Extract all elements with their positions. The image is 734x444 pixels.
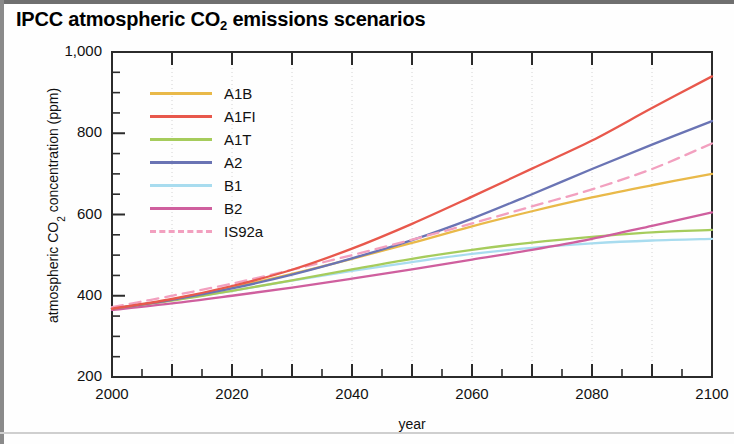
- y-axis-tick-label: 1,000: [42, 42, 102, 59]
- x-axis-tick-label: 2040: [312, 385, 392, 402]
- legend-item-a1b[interactable]: A1B: [150, 82, 263, 105]
- legend-label: IS92a: [224, 223, 263, 240]
- legend-label: B2: [224, 200, 242, 217]
- legend-label: A1FI: [224, 108, 256, 125]
- series-line-b1: [112, 239, 712, 309]
- figure-panel: IPCC atmospheric CO2 emissions scenarios…: [0, 0, 734, 444]
- plot-area: [0, 0, 734, 444]
- y-axis-tick-label: 600: [42, 205, 102, 222]
- legend-swatch-b2: [150, 207, 212, 210]
- legend-item-is92a[interactable]: IS92a: [150, 220, 263, 243]
- legend-item-a1fi[interactable]: A1FI: [150, 105, 263, 128]
- y-axis-tick-label: 400: [42, 286, 102, 303]
- legend-swatch-a1fi: [150, 115, 212, 118]
- plot-svg: [0, 0, 734, 444]
- legend-item-b1[interactable]: B1: [150, 174, 263, 197]
- legend-swatch-a2: [150, 161, 212, 164]
- legend-item-b2[interactable]: B2: [150, 197, 263, 220]
- legend-swatch-b1: [150, 184, 212, 187]
- legend-label: A1B: [224, 85, 252, 102]
- legend-swatch-a1t: [150, 138, 212, 141]
- x-axis-tick-label: 2060: [432, 385, 512, 402]
- legend-item-a2[interactable]: A2: [150, 151, 263, 174]
- x-axis-tick-label: 2020: [192, 385, 272, 402]
- legend-label: A2: [224, 154, 242, 171]
- y-axis-tick-label: 800: [42, 123, 102, 140]
- legend-swatch-is92a: [150, 230, 212, 233]
- legend-item-a1t[interactable]: A1T: [150, 128, 263, 151]
- legend: A1BA1FIA1TA2B1B2IS92a: [150, 82, 263, 243]
- legend-label: A1T: [224, 131, 252, 148]
- x-axis-tick-label: 2080: [552, 385, 632, 402]
- legend-label: B1: [224, 177, 242, 194]
- x-axis-tick-label: 2000: [72, 385, 152, 402]
- y-axis-tick-label: 200: [42, 367, 102, 384]
- legend-swatch-a1b: [150, 92, 212, 95]
- x-axis-tick-label: 2100: [672, 385, 734, 402]
